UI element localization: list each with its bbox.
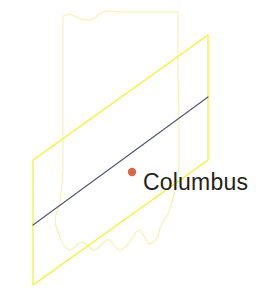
swath-parallelogram: [33, 35, 208, 285]
map-figure: Columbus: [0, 0, 273, 294]
center-track-line: [33, 97, 208, 225]
city-label-columbus: Columbus: [143, 169, 248, 195]
map-canvas: Columbus: [0, 0, 273, 294]
city-marker-dot[interactable]: [128, 168, 136, 176]
